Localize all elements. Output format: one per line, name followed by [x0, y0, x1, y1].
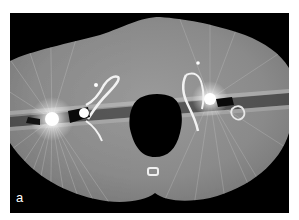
panel-label: a	[16, 191, 23, 205]
ct-scan-image: a	[10, 13, 289, 213]
ct-slice-graphic	[10, 13, 289, 213]
